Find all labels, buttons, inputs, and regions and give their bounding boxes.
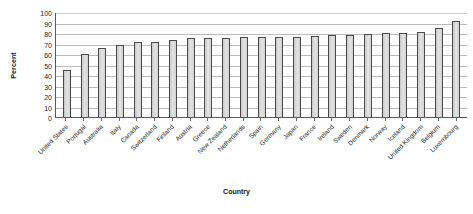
bar xyxy=(275,37,283,117)
y-axis-title-label: Percent xyxy=(10,52,17,78)
bar-slot xyxy=(58,13,76,117)
y-axis-tick-label: 10 xyxy=(26,104,52,111)
bar xyxy=(328,35,336,117)
bar-slot xyxy=(147,13,165,117)
x-axis-tick-mark xyxy=(438,118,439,121)
x-axis-tick-mark xyxy=(296,118,297,121)
x-axis-tick-mark xyxy=(83,118,84,121)
y-axis-tick-label: 70 xyxy=(26,41,52,48)
y-axis-tick-label: 60 xyxy=(26,52,52,59)
bar-slot xyxy=(164,13,182,117)
bar xyxy=(364,34,372,117)
plot-area xyxy=(55,13,467,118)
bar xyxy=(187,38,195,117)
x-axis-tick-mark xyxy=(456,118,457,121)
x-axis-tick-mark xyxy=(154,118,155,121)
x-axis-tick-mark xyxy=(402,118,403,121)
x-axis-tick-mark xyxy=(101,118,102,121)
x-axis-category-labels: United StatesPortugalAustraliaItalyCanad… xyxy=(55,122,467,184)
bar xyxy=(293,37,301,117)
bar xyxy=(81,54,89,117)
x-axis-tick-mark xyxy=(65,118,66,121)
x-axis-tick-mark xyxy=(225,118,226,121)
x-axis-tick-mark xyxy=(260,118,261,121)
bar-slot xyxy=(182,13,200,117)
bar xyxy=(452,21,460,117)
bar-slot xyxy=(306,13,324,117)
bar-slot xyxy=(341,13,359,117)
bar-slot xyxy=(129,13,147,117)
bar xyxy=(116,45,124,117)
x-axis-tick-mark xyxy=(278,118,279,121)
x-axis-tick-mark xyxy=(119,118,120,121)
x-axis-tick-mark xyxy=(172,118,173,121)
bar xyxy=(151,42,159,117)
x-axis-tick-mark xyxy=(314,118,315,121)
bar xyxy=(417,32,425,117)
bar-slot xyxy=(447,13,465,117)
bar xyxy=(382,33,390,117)
bar xyxy=(169,40,177,117)
y-axis-tick-label: 30 xyxy=(26,83,52,90)
bar xyxy=(222,38,230,117)
bar-slot xyxy=(200,13,218,117)
x-axis-tick-mark xyxy=(367,118,368,121)
bar xyxy=(63,70,71,117)
bar-slot xyxy=(430,13,448,117)
y-axis-title: Percent xyxy=(2,0,24,130)
x-axis-tick-mark xyxy=(136,118,137,121)
bar-slot xyxy=(235,13,253,117)
bar xyxy=(346,35,354,117)
y-axis-tick-label: 20 xyxy=(26,94,52,101)
bar-slot xyxy=(253,13,271,117)
bar-chart: Percent 1009080706050403020100 United St… xyxy=(0,0,473,214)
bar-slot xyxy=(324,13,342,117)
x-label-slot: Luxembourg xyxy=(447,122,465,184)
bar xyxy=(435,28,443,117)
bar-slot xyxy=(394,13,412,117)
x-axis-tick-mark xyxy=(243,118,244,121)
bar-slot xyxy=(93,13,111,117)
bar xyxy=(399,33,407,117)
bar xyxy=(240,37,248,117)
bar xyxy=(134,42,142,117)
bar xyxy=(258,37,266,117)
x-axis-tick-mark xyxy=(190,118,191,121)
bar-slot xyxy=(288,13,306,117)
y-axis-tick-label: 40 xyxy=(26,73,52,80)
y-axis-tick-label: 90 xyxy=(26,20,52,27)
y-axis-tick-label: 50 xyxy=(26,62,52,69)
bar xyxy=(204,38,212,117)
bar-series xyxy=(56,13,467,117)
x-axis-title: Country xyxy=(0,188,473,195)
y-axis-tick-label: 0 xyxy=(26,115,52,122)
bar xyxy=(311,36,319,117)
bar-slot xyxy=(76,13,94,117)
x-axis-tick-mark xyxy=(385,118,386,121)
bar-slot xyxy=(359,13,377,117)
x-axis-tick-mark xyxy=(349,118,350,121)
y-axis-tick-label: 80 xyxy=(26,31,52,38)
bar-slot xyxy=(111,13,129,117)
bar-slot xyxy=(377,13,395,117)
bar-slot xyxy=(412,13,430,117)
x-axis-tick-mark xyxy=(207,118,208,121)
bar-slot xyxy=(217,13,235,117)
y-axis-tick-labels: 1009080706050403020100 xyxy=(26,13,52,118)
y-axis-tick-label: 100 xyxy=(26,10,52,17)
x-axis-tick-mark xyxy=(331,118,332,121)
x-axis-tick-mark xyxy=(420,118,421,121)
bar xyxy=(98,48,106,117)
bar-slot xyxy=(270,13,288,117)
